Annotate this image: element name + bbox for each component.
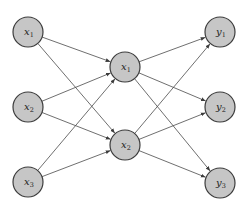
node-subscript: 1: [127, 66, 131, 74]
input-node-x3: x3: [13, 167, 43, 197]
edge-X1-to-y1: [139, 37, 205, 61]
edge-x1-to-X2: [38, 43, 115, 133]
edge-X2-to-y1: [135, 44, 210, 134]
edge-x3-to-X1: [38, 79, 115, 171]
input-node-x1: x1: [13, 17, 43, 47]
output-node-y3: y3: [205, 168, 235, 198]
node-subscript: 1: [222, 31, 226, 39]
node-subscript: 2: [127, 144, 131, 152]
edge-X1-to-y2: [139, 73, 206, 101]
edge-x1-to-X1: [42, 37, 110, 62]
node-subscript: 3: [30, 181, 34, 189]
input-node-x2: x2: [13, 92, 43, 122]
nodes-group: x1x2x3x1x2y1y2y3: [13, 17, 235, 198]
neural-network-diagram: x1x2x3x1x2y1y2y3: [0, 0, 251, 213]
hidden-node-X2: x2: [110, 130, 140, 160]
edge-x2-to-X1: [42, 73, 111, 101]
node-subscript: 2: [222, 106, 226, 114]
node-subscript: 3: [222, 182, 226, 190]
edge-x3-to-X2: [42, 151, 111, 177]
node-subscript: 1: [30, 31, 34, 39]
output-node-y2: y2: [205, 92, 235, 122]
edge-X2-to-y3: [139, 151, 206, 178]
node-subscript: 2: [30, 106, 34, 114]
hidden-node-X1: x1: [110, 52, 140, 82]
edge-X1-to-y3: [135, 79, 211, 171]
output-node-y1: y1: [205, 17, 235, 47]
